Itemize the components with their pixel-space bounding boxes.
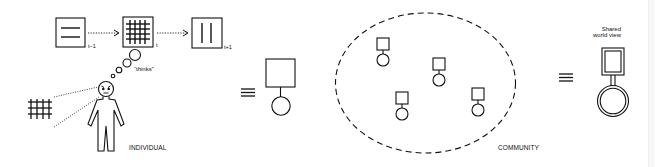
person-figure	[88, 82, 124, 152]
time-label-t: t	[156, 43, 158, 49]
arrow-t-to-t-plus-1	[157, 30, 188, 36]
time-label-t-plus-1: t+1	[224, 45, 232, 51]
thought-bubbles	[111, 50, 140, 78]
page-edge	[648, 0, 655, 167]
sight-lines	[54, 87, 99, 127]
equivalence-icon-2	[559, 74, 573, 81]
individual-caption: INDIVIDUAL	[129, 145, 166, 152]
world-view-figure	[266, 59, 295, 115]
state-box-t	[123, 17, 153, 47]
perceived-grid-icon	[28, 99, 52, 119]
state-box-t-minus-1	[56, 18, 85, 47]
equivalence-icon-1	[241, 89, 255, 96]
shared-label-line2: world view	[586, 32, 621, 38]
shared-world-view-figure	[598, 48, 629, 117]
arrow-t-minus-1-to-t	[88, 30, 119, 36]
community-member-1	[377, 38, 389, 66]
community-member-3	[396, 92, 408, 120]
time-label-t-minus-1: t−1	[88, 44, 96, 50]
community-member-4	[472, 88, 484, 116]
diagram-svg	[0, 0, 655, 167]
thinks-label: “thinks”	[134, 66, 154, 72]
diagram-canvas: t−1 t t+1 “thinks” INDIVIDUAL COMMUNITY …	[0, 0, 655, 167]
community-boundary	[336, 13, 516, 153]
community-caption: COMMUNITY	[498, 145, 539, 152]
state-box-t-plus-1	[192, 18, 222, 48]
community-member-2	[433, 58, 445, 86]
